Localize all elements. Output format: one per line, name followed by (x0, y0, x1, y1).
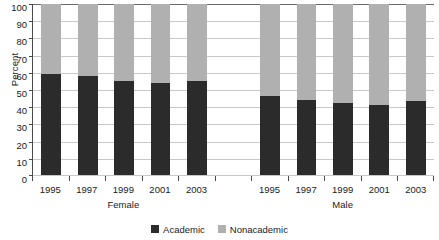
y-axis-tick-label: 80 (0, 38, 27, 48)
y-axis-tick-labels: 1009080706050403020100 (0, 4, 27, 176)
bar-segment-nonacademic (187, 4, 207, 81)
legend-label: Academic (163, 224, 205, 235)
bar-stack (151, 4, 171, 175)
bar-segment-nonacademic (297, 4, 317, 100)
bar-stack (41, 4, 61, 175)
legend-label: Nonacademic (230, 224, 288, 235)
x-axis-tick-mark (288, 176, 325, 181)
x-axis-tick-label: 1995 (32, 183, 69, 197)
y-axis-tick-label: 40 (0, 106, 27, 116)
bar-slot (215, 4, 251, 175)
x-axis-tick-marks (32, 176, 434, 181)
bar-stack (297, 4, 317, 175)
x-axis-tick-label: 1997 (288, 183, 325, 197)
bar-slot (142, 4, 178, 175)
bar-stack (260, 4, 280, 175)
x-axis-tick-mark (361, 176, 398, 181)
bar-segment-nonacademic (369, 4, 389, 105)
bar-slot (325, 4, 361, 175)
y-axis-tick-label: 70 (0, 55, 27, 65)
bar-slot (252, 4, 288, 175)
bar-segment-nonacademic (333, 4, 353, 103)
x-axis-tick-label: 1995 (251, 183, 288, 197)
x-axis-tick-label: 2001 (361, 183, 398, 197)
y-axis-tick-label: 60 (0, 72, 27, 82)
stacked-bar-chart: Percent 1009080706050403020100 199519971… (0, 0, 439, 240)
bar-slot (288, 4, 324, 175)
bar-segment-academic (260, 96, 280, 175)
x-axis-tick-label: 2001 (142, 183, 179, 197)
x-axis-group-label: Male (324, 198, 361, 212)
bar-slot (69, 4, 105, 175)
x-axis-tick-mark (215, 176, 252, 181)
bar-segment-academic (41, 74, 61, 175)
x-axis-tick-mark (142, 176, 179, 181)
x-axis-tick-label: 1997 (69, 183, 106, 197)
bar-stack (333, 4, 353, 175)
y-axis-tick-label: 50 (0, 89, 27, 99)
x-axis-tick-mark (32, 176, 69, 181)
chart-legend: AcademicNonacademic (0, 222, 439, 236)
y-axis-tick-label: 30 (0, 124, 27, 134)
bar-segment-academic (151, 83, 171, 175)
x-axis-tick-mark (324, 176, 361, 181)
bar-slot (398, 4, 434, 175)
bar-stack (114, 4, 134, 175)
bar-slot (361, 4, 397, 175)
bar-slot (179, 4, 215, 175)
bar-segment-nonacademic (406, 4, 426, 101)
legend-item: Nonacademic (218, 224, 288, 235)
x-axis-tick-label (215, 183, 252, 197)
bar-stack (187, 4, 207, 175)
bar-segment-nonacademic (151, 4, 171, 83)
bar-stack (369, 4, 389, 175)
bar-slot (33, 4, 69, 175)
bars-layer (33, 4, 434, 175)
bar-stack (406, 4, 426, 175)
bar-segment-academic (297, 100, 317, 175)
y-axis-tick-label: 100 (0, 3, 27, 13)
bar-stack (78, 4, 98, 175)
bar-segment-nonacademic (260, 4, 280, 96)
bar-segment-academic (369, 105, 389, 175)
y-axis-tick-label: 0 (0, 175, 27, 185)
x-axis-tick-mark (105, 176, 142, 181)
bar-segment-nonacademic (41, 4, 61, 74)
plot-area (32, 4, 434, 176)
x-axis-group-label: Female (105, 198, 142, 212)
bar-segment-nonacademic (114, 4, 134, 81)
bar-segment-academic (333, 103, 353, 175)
y-axis-tick-label: 20 (0, 141, 27, 151)
bar-slot (106, 4, 142, 175)
y-axis-tick-label: 10 (0, 158, 27, 168)
x-axis-tick-mark (251, 176, 288, 181)
x-axis-tick-labels: 1995199719992001200319951997199920012003 (32, 183, 434, 197)
bar-segment-nonacademic (78, 4, 98, 76)
bar-segment-academic (406, 101, 426, 175)
x-axis-tick-label: 2003 (397, 183, 434, 197)
x-axis-group-labels: FemaleMale (32, 198, 434, 212)
x-axis-tick-mark (69, 176, 106, 181)
bar-segment-academic (187, 81, 207, 175)
x-axis-tick-label: 1999 (105, 183, 142, 197)
legend-item: Academic (151, 224, 205, 235)
y-axis-tick-label: 90 (0, 20, 27, 30)
x-axis-tick-mark (397, 176, 434, 181)
bar-segment-academic (114, 81, 134, 175)
x-axis-tick-mark (178, 176, 215, 181)
bar-segment-academic (78, 76, 98, 175)
x-axis-tick-label: 2003 (178, 183, 215, 197)
x-axis-tick-label: 1999 (324, 183, 361, 197)
legend-swatch-icon (218, 225, 226, 233)
legend-swatch-icon (151, 225, 159, 233)
